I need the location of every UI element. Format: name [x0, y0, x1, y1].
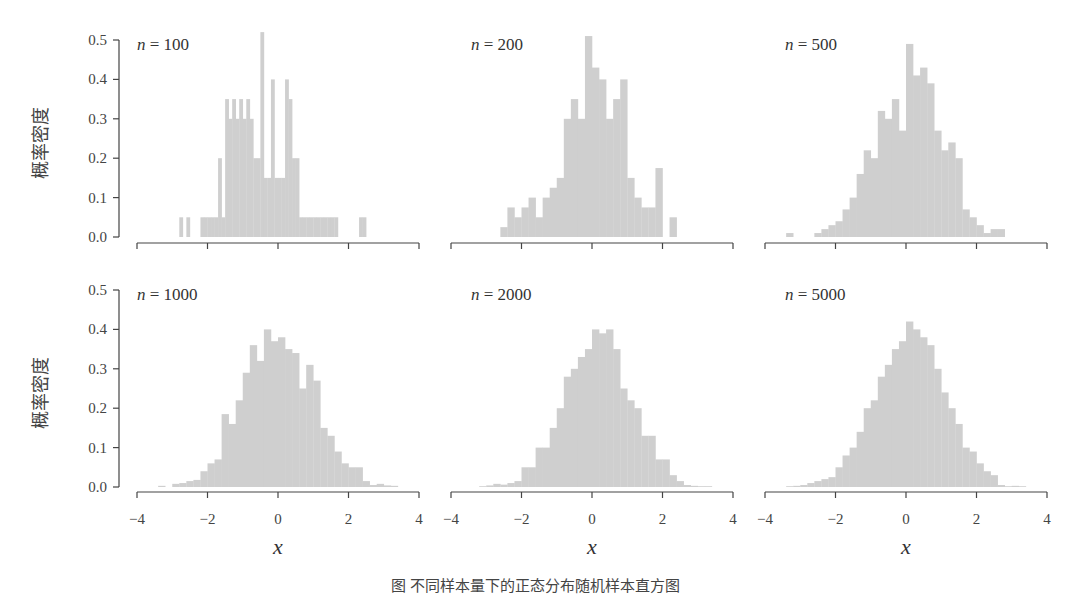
y-tick-label: 0.1: [88, 190, 107, 206]
histogram-bar: [529, 198, 536, 237]
histogram-bar: [514, 217, 521, 237]
sample-size-label: n = 500: [785, 35, 837, 54]
y-axis-title: 概率密度: [30, 107, 51, 179]
histogram-bar: [585, 36, 592, 237]
histogram-bar: [705, 486, 712, 487]
histogram-bar: [934, 131, 941, 237]
histogram-bar: [627, 400, 634, 487]
x-tick-label: 2: [659, 511, 667, 527]
histogram-bar: [814, 233, 821, 237]
histogram-bar: [592, 68, 599, 237]
histogram-bar: [814, 481, 821, 487]
histogram-bar: [920, 68, 927, 237]
histogram-bar: [906, 44, 913, 237]
histogram-bar: [239, 99, 243, 237]
y-tick-label: 0.5: [88, 32, 107, 48]
histogram-panel-3: n = 500: [765, 35, 1047, 249]
y-tick-label: 0.0: [88, 229, 107, 245]
histogram-bar: [836, 221, 843, 237]
histogram-bar: [885, 365, 892, 487]
histogram-bar: [349, 467, 356, 487]
sample-size-label: n = 5000: [785, 285, 846, 304]
histogram-bar: [250, 119, 254, 237]
histogram-bar: [613, 99, 620, 237]
histogram-bar: [186, 481, 193, 487]
y-tick-label: 0.4: [88, 71, 107, 87]
histogram-bar: [1005, 486, 1012, 487]
histogram-bar: [391, 486, 398, 487]
histogram-bars: [158, 329, 398, 487]
x-tick-label: 0: [588, 511, 596, 527]
histogram-bar: [285, 349, 292, 487]
histogram-bar: [550, 428, 557, 487]
histogram-bar: [292, 353, 299, 487]
histogram-bar: [522, 467, 529, 487]
histogram-bar: [991, 475, 998, 487]
histogram-bar: [479, 486, 486, 487]
histogram-bar: [236, 400, 243, 487]
histogram-bar: [334, 217, 338, 237]
x-axis: [765, 243, 1047, 249]
histogram-bar: [821, 479, 828, 487]
x-tick-label: 4: [729, 511, 737, 527]
histogram-bar: [620, 389, 627, 488]
histogram-bar: [871, 400, 878, 487]
histogram-bar: [698, 486, 705, 487]
histogram-bars: [179, 32, 366, 237]
histogram-bar: [158, 486, 165, 487]
x-axis: −4−2024x: [757, 492, 1051, 559]
histogram-bar: [208, 217, 212, 237]
x-axis-title: x: [272, 534, 283, 559]
x-tick-label: −2: [514, 511, 530, 527]
histogram-bar: [285, 79, 289, 237]
histogram-bar: [955, 158, 962, 237]
histogram-bar: [864, 150, 871, 237]
histogram-bar: [648, 436, 655, 487]
histogram-bars: [786, 44, 1005, 237]
histogram-bar: [229, 119, 233, 237]
histogram-bar: [208, 463, 215, 487]
figure-caption: 图 不同样本量下的正态分布随机样本直方图: [0, 574, 1071, 595]
x-axis: −4−2024x: [129, 492, 423, 559]
y-axis: 0.00.10.20.30.40.5概率密度: [30, 282, 119, 495]
histogram-bar: [892, 349, 899, 487]
histogram-bar: [522, 207, 529, 237]
histogram-bar: [850, 448, 857, 487]
y-tick-label: 0.4: [88, 321, 107, 337]
histogram-bar: [836, 467, 843, 487]
histogram-bar: [599, 333, 606, 487]
histogram-bar: [962, 448, 969, 487]
histogram-bar: [363, 217, 367, 237]
histogram-bar: [864, 408, 871, 487]
histogram-panel-1: 0.00.10.20.30.40.5概率密度n = 100: [30, 32, 419, 249]
histogram-bar: [215, 217, 219, 237]
histogram-bar: [578, 119, 585, 237]
histogram-bar: [296, 158, 300, 237]
histogram-bar: [172, 484, 179, 487]
histogram-bar: [670, 475, 677, 487]
histogram-bar: [193, 480, 200, 487]
histogram-bar: [243, 373, 250, 487]
y-tick-label: 0.5: [88, 282, 107, 298]
histogram-bar: [962, 209, 969, 237]
histogram-bar: [655, 168, 662, 237]
histogram-bar: [179, 483, 186, 487]
histogram-bar: [536, 448, 543, 487]
histogram-bar: [821, 229, 828, 237]
histogram-bar: [571, 369, 578, 487]
histogram-bar: [850, 198, 857, 237]
histogram-bar: [663, 459, 670, 487]
histogram-bar: [186, 217, 190, 237]
histogram-bar: [327, 217, 331, 237]
x-axis-title: x: [586, 534, 597, 559]
sample-size-label: n = 2000: [471, 285, 532, 304]
histogram-bar: [253, 158, 257, 237]
histogram-bar: [871, 158, 878, 237]
histogram-panel-4: −4−2024x0.00.10.20.30.40.5概率密度n = 1000: [30, 282, 423, 559]
histogram-bar: [786, 486, 793, 487]
histogram-bar: [1019, 486, 1026, 487]
histogram-bar: [179, 217, 183, 237]
histogram-bar: [306, 217, 310, 237]
histogram-bar: [500, 227, 507, 237]
histogram-bar: [236, 119, 240, 237]
